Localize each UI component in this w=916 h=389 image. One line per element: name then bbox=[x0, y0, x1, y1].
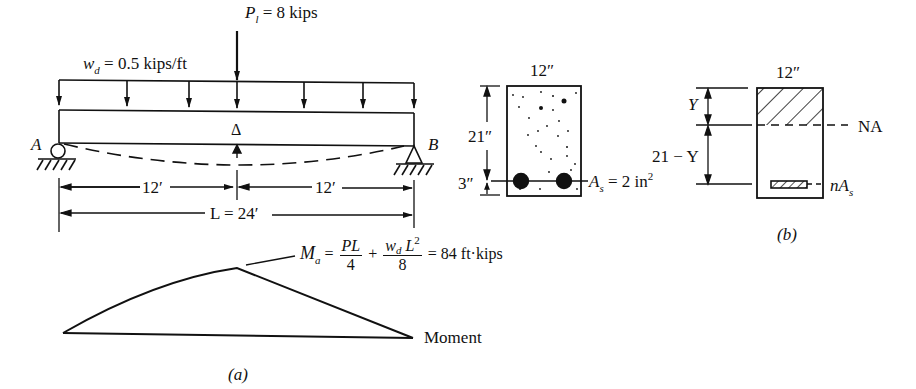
section-1-depth-label: 21″ bbox=[468, 128, 492, 145]
rebar-bars bbox=[491, 174, 588, 189]
deflection-indicator bbox=[233, 145, 241, 158]
section-2-dimensions bbox=[705, 89, 711, 184]
point-load-symbol: P bbox=[245, 3, 255, 22]
steel-area-label: As = 2 in2 bbox=[589, 173, 653, 190]
point-load-label: Pl = 8 kips bbox=[245, 4, 318, 21]
caption-b: (b) bbox=[777, 226, 797, 243]
transformed-steel-subscript: s bbox=[849, 186, 853, 198]
modular-ratio-symbol: n bbox=[830, 176, 839, 195]
fraction-wl2-over-8: wd L2 8 bbox=[383, 238, 422, 273]
lower-depth-label: 21 − Y bbox=[652, 148, 699, 165]
equals-sign: = bbox=[325, 245, 334, 262]
section-2-width-label: 12″ bbox=[776, 64, 800, 81]
caption-a: (a) bbox=[228, 366, 248, 383]
deflection-label: Δ bbox=[231, 122, 241, 138]
steel-symbol: A bbox=[589, 172, 599, 191]
distributed-load-subscript: d bbox=[94, 64, 100, 76]
point-load-subscript: l bbox=[255, 13, 258, 25]
moment-subscript: a bbox=[315, 254, 321, 266]
support-a-label: A bbox=[31, 136, 41, 153]
dim-total-label: L = 24′ bbox=[210, 205, 259, 222]
dim-right-label: 12′ bbox=[315, 179, 336, 196]
distributed-load-label: wd = 0.5 kips/ft bbox=[83, 55, 187, 72]
fraction-1-denominator: 4 bbox=[340, 256, 363, 273]
fraction-1-numerator: PL bbox=[340, 238, 363, 256]
fraction-pl-over-4: PL 4 bbox=[340, 238, 363, 273]
w-symbol: w bbox=[385, 237, 396, 254]
moment-result: = 84 ft·kips bbox=[428, 245, 503, 262]
neutral-axis-label: NA bbox=[858, 118, 883, 135]
support-b-label: B bbox=[428, 136, 438, 153]
distributed-load-symbol: w bbox=[83, 54, 94, 73]
steel-value: = 2 in bbox=[608, 172, 648, 191]
steel-unit-superscript: 2 bbox=[648, 170, 654, 182]
caption-a-text: (a) bbox=[228, 365, 248, 384]
deflected-shape bbox=[64, 144, 404, 165]
l-symbol: L bbox=[405, 237, 414, 254]
fraction-2-denominator: 8 bbox=[383, 256, 422, 273]
transformed-steel-label: nAs bbox=[830, 177, 853, 194]
dim-left-label: 12′ bbox=[142, 179, 163, 196]
section-2-transformed bbox=[757, 88, 823, 198]
distributed-load-value: = 0.5 kips/ft bbox=[104, 54, 187, 73]
moment-symbol: M bbox=[300, 243, 315, 263]
section-1-width-label: 12″ bbox=[530, 62, 554, 79]
w-subscript: d bbox=[396, 244, 402, 256]
moment-diagram-label: Moment bbox=[424, 329, 482, 346]
point-load-value: = 8 kips bbox=[263, 3, 318, 22]
plus-sign: + bbox=[368, 245, 377, 262]
support-a-roller bbox=[37, 144, 76, 170]
fraction-2-numerator: wd L2 bbox=[383, 238, 422, 256]
steel-subscript: s bbox=[599, 182, 603, 194]
y-label: Y bbox=[688, 96, 697, 113]
moment-equation: Ma = PL 4 + wd L2 8 = 84 ft·kips bbox=[300, 238, 503, 273]
section-1-cover-label: 3″ bbox=[458, 175, 474, 192]
transformed-steel-symbol: A bbox=[839, 176, 849, 195]
l-superscript: 2 bbox=[414, 234, 420, 246]
